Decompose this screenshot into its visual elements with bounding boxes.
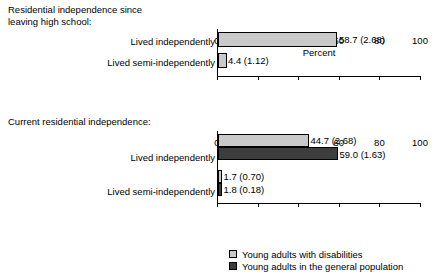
category-label-lived-independently-top: Lived independently	[15, 36, 215, 47]
category-label-lived-independently-bottom: Lived independently	[15, 152, 215, 163]
bar-bottom-general-population-lived-semi-independently	[218, 183, 222, 196]
bar-value-bottom-lived-independently-disabilities: 44.7 (2.68)	[311, 136, 357, 146]
x-tick-80-bottom	[379, 203, 380, 207]
chart-panel-bottom: Current residential independence: Lived …	[0, 110, 442, 238]
bar-value-bottom-lived-semi-independently-general: 1.8 (0.18)	[224, 185, 265, 195]
bar-value-top-lived-independently: 58.7 (2.68)	[339, 35, 385, 45]
category-label-lived-semi-independently-top: Lived semi-independently	[15, 57, 215, 68]
legend-item-general-population: Young adults in the general population	[229, 260, 403, 272]
x-tick-20-bottom	[258, 203, 259, 207]
legend-swatch-general-population-icon	[229, 262, 237, 270]
bar-bottom-disabilities-lived-semi-independently	[218, 170, 222, 183]
bar-value-top-lived-semi-independently: 4.4 (1.12)	[228, 56, 269, 66]
x-ticklabel-100-bottom: 100	[405, 137, 435, 148]
x-tick-100-top	[420, 76, 421, 80]
x-ticklabel-80-bottom: 80	[364, 137, 394, 148]
x-tick-40-top	[298, 76, 299, 80]
x-tick-60-bottom	[339, 203, 340, 207]
x-tick-60-top	[339, 76, 340, 80]
plot-area-bottom: 0 20 40 60 80 100 Percent 44.7 (2.68) 59…	[217, 131, 420, 203]
bar-bottom-disabilities-lived-independently	[218, 134, 309, 147]
x-tick-40-bottom	[298, 203, 299, 207]
legend-swatch-disabilities-icon	[229, 250, 237, 258]
category-label-lived-semi-independently-bottom: Lived semi-independently	[15, 186, 215, 197]
x-ticklabel-100-top: 100	[405, 35, 435, 46]
chart-title-top: Residential independence since leaving h…	[8, 4, 142, 28]
x-tick-100-bottom	[420, 203, 421, 207]
x-axis-top	[217, 76, 421, 77]
x-tick-0-top	[217, 76, 218, 80]
bar-value-bottom-lived-independently-general: 59.0 (1.63)	[340, 150, 386, 160]
legend-label-disabilities: Young adults with disabilities	[242, 249, 363, 260]
plot-area-top: 0 20 40 60 80 100 Percent 58.7 (2.68) 4.…	[217, 29, 420, 75]
x-axis-bottom	[217, 203, 421, 204]
x-tick-80-top	[379, 76, 380, 80]
chart-title-bottom: Current residential independence:	[8, 116, 151, 128]
x-tick-0-bottom	[217, 203, 218, 207]
x-tick-20-top	[258, 76, 259, 80]
chart-panel-top: Residential independence since leaving h…	[0, 0, 442, 110]
bar-top-disabilities-lived-semi-independently	[218, 53, 227, 68]
chart-legend: Young adults with disabilities Young adu…	[229, 248, 403, 272]
bar-top-disabilities-lived-independently	[218, 32, 337, 47]
legend-label-general-population: Young adults in the general population	[242, 261, 403, 272]
bar-bottom-general-population-lived-independently	[218, 147, 338, 160]
legend-item-disabilities: Young adults with disabilities	[229, 248, 403, 260]
bar-value-bottom-lived-semi-independently-disabilities: 1.7 (0.70)	[224, 172, 265, 182]
